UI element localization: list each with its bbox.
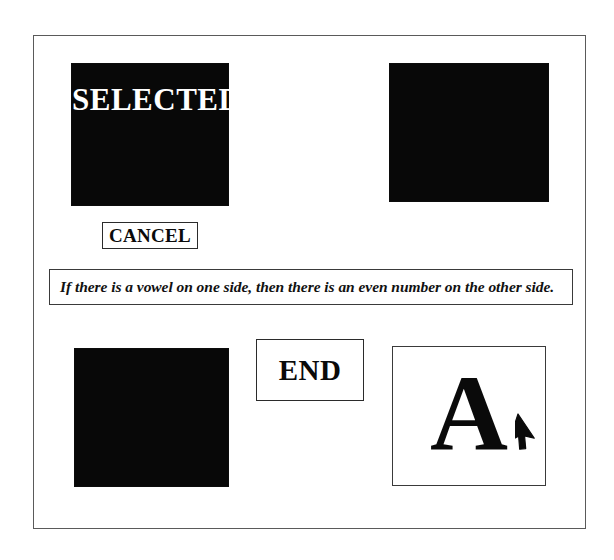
card-bottom-right-revealed[interactable]: A bbox=[392, 346, 546, 486]
rule-statement-text: If there is a vowel on one side, then th… bbox=[50, 278, 554, 296]
rule-statement-box: If there is a vowel on one side, then th… bbox=[49, 269, 573, 305]
card-face-letter: A bbox=[393, 360, 545, 468]
end-button[interactable]: END bbox=[256, 339, 364, 401]
card-selected-label: SELECTED bbox=[72, 84, 228, 115]
cancel-button-label: CANCEL bbox=[109, 225, 191, 247]
experiment-frame: SELECTED CANCEL If there is a vowel on o… bbox=[33, 35, 586, 529]
cancel-button[interactable]: CANCEL bbox=[102, 222, 198, 249]
card-selected[interactable]: SELECTED bbox=[71, 63, 229, 206]
end-button-label: END bbox=[279, 354, 342, 387]
card-bottom-left[interactable] bbox=[74, 348, 229, 487]
card-top-right[interactable] bbox=[389, 63, 549, 202]
